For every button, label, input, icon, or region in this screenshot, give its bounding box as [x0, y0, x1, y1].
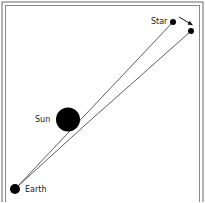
star-label: Star	[151, 17, 168, 26]
sun-body	[56, 108, 80, 132]
inner-frame	[6, 6, 200, 203]
apparent-line-of-sight	[17, 32, 191, 188]
star-actual-position	[170, 19, 176, 25]
earth-label: Earth	[25, 185, 46, 194]
lensing-diagram: Star Sun Earth	[0, 0, 205, 202]
true-line-of-sight	[17, 23, 173, 188]
star-apparent-position	[188, 28, 194, 34]
shift-arrow-head-icon	[188, 21, 194, 26]
sun-label: Sun	[35, 115, 50, 124]
earth-body	[10, 184, 20, 194]
outer-frame	[2, 2, 203, 202]
